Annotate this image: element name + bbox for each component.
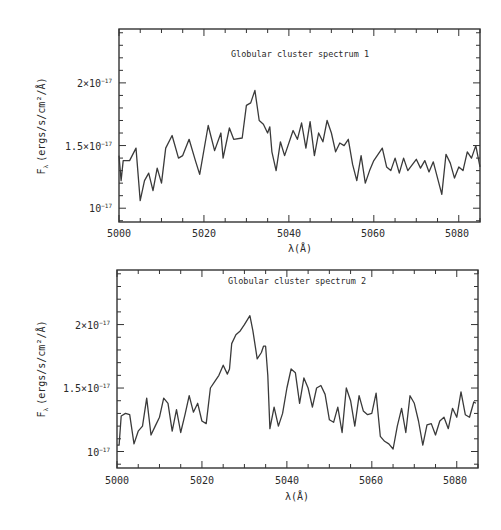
figure: Globular cluster spectrum 1 2×10−17 1.5×…: [0, 0, 501, 530]
panel-title: Globular cluster spectrum 1: [231, 49, 369, 59]
panel-spectrum-2: Globular cluster spectrum 2 2×10−17 1.5×…: [35, 270, 478, 502]
x-tick-label: 5060: [361, 228, 385, 239]
x-tick-label: 5000: [107, 228, 131, 239]
x-tick-label: 5020: [192, 228, 216, 239]
y-tick-label-2: 2×10−17: [77, 77, 112, 89]
panel-title: Globular cluster spectrum 2: [228, 276, 366, 286]
x-tick-label: 5020: [190, 475, 214, 486]
y-tick-label-1-5: 1.5×10−17: [63, 382, 110, 394]
x-tick-label: 5080: [443, 475, 467, 486]
panel-spectrum-1: Globular cluster spectrum 1 2×10−17 1.5×…: [35, 29, 480, 254]
x-axis-label: λ(Å): [285, 490, 309, 502]
x-axis-label: λ(Å): [288, 242, 312, 254]
spectrum-line: [119, 90, 480, 200]
y-tick-label-1: 10−17: [87, 446, 110, 458]
spectrum-line: [117, 316, 476, 449]
y-tick-label-2: 2×10−17: [75, 319, 110, 331]
x-tick-label: 5000: [105, 475, 129, 486]
x-tick-label: 5040: [277, 228, 301, 239]
y-axis-label: Fλ(ergs/s/cm²/Å): [35, 321, 49, 418]
y-tick-labels: 2×10−17 1.5×10−17 10−17: [63, 319, 110, 458]
y-axis-label: Fλ(ergs/s/cm²/Å): [35, 78, 49, 175]
x-tick-labels: 5000 5020 5040 5060 5080: [107, 228, 469, 239]
y-tick-labels: 2×10−17 1.5×10−17 10−17: [65, 77, 112, 214]
x-tick-label: 5040: [275, 475, 299, 486]
x-tick-label: 5080: [445, 228, 469, 239]
y-tick-label-1: 10−17: [89, 202, 112, 214]
y-tick-label-1-5: 1.5×10−17: [65, 140, 112, 152]
x-tick-labels: 5000 5020 5040 5060 5080: [105, 475, 467, 486]
x-tick-label: 5060: [359, 475, 383, 486]
